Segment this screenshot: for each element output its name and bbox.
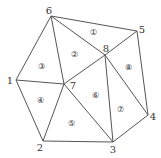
region-label-1: ①: [90, 28, 97, 37]
edge-7-3: [64, 84, 113, 142]
edge-3-2: [43, 141, 113, 142]
region-label-3: ③: [38, 62, 45, 71]
vertex-label-8: 8: [103, 43, 109, 54]
edge-6-7: [51, 16, 64, 84]
region-label-4: ④: [37, 96, 44, 105]
edge-8-5: [105, 31, 137, 55]
vertex-label-5: 5: [139, 24, 145, 35]
edge-6-8: [51, 16, 105, 55]
edges-group: [16, 16, 148, 142]
vertex-label-1: 1: [7, 75, 13, 86]
vertex-label-3: 3: [110, 144, 116, 155]
vertex-labels-group: 12345678: [7, 5, 156, 155]
edge-2-1: [16, 80, 43, 141]
edge-1-6: [16, 16, 51, 80]
region-label-8: ⑧: [125, 63, 132, 72]
vertex-label-7: 7: [70, 80, 76, 91]
triangle-mesh-diagram: 12345678 ①②③④⑤⑥⑦⑧: [0, 0, 161, 158]
diagram-canvas: 12345678 ①②③④⑤⑥⑦⑧: [0, 0, 161, 158]
edge-1-7: [16, 80, 64, 84]
edge-2-7: [43, 84, 64, 141]
vertex-label-2: 2: [37, 142, 43, 153]
region-label-6: ⑥: [92, 91, 99, 100]
region-label-5: ⑤: [68, 119, 75, 128]
vertex-label-6: 6: [46, 5, 52, 16]
region-labels-group: ①②③④⑤⑥⑦⑧: [37, 28, 132, 128]
region-label-2: ②: [71, 50, 78, 59]
vertex-label-4: 4: [150, 111, 156, 122]
edge-8-3: [105, 55, 113, 142]
region-label-7: ⑦: [117, 105, 124, 114]
edge-4-3: [113, 115, 148, 142]
